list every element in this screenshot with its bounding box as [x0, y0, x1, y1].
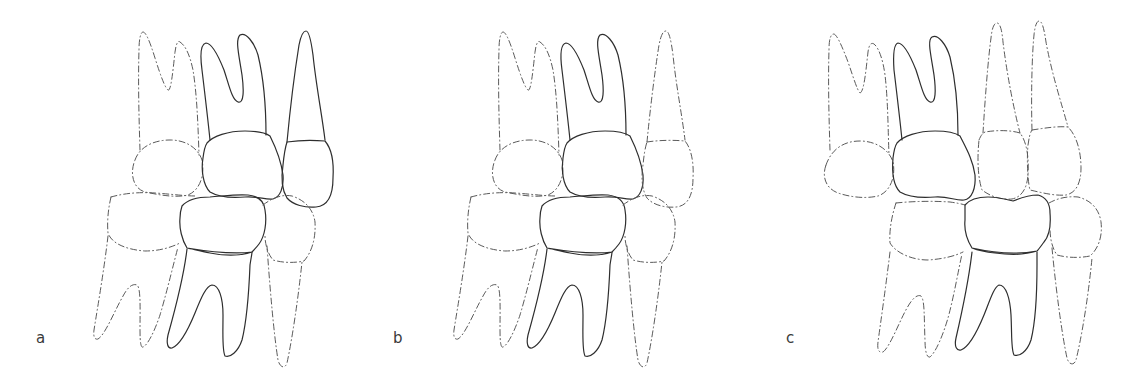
tooth-outline — [647, 31, 685, 142]
tooth-outline — [287, 31, 325, 142]
tooth-outline — [454, 236, 538, 347]
tooth-crown — [562, 131, 643, 199]
tooth-lower-right-premolar-dashed — [623, 195, 675, 366]
tooth-outline — [499, 32, 559, 155]
tooth-crown — [263, 195, 315, 262]
tooth-outline — [627, 246, 662, 367]
tooth-outline — [983, 23, 1020, 133]
tooth-outline — [829, 34, 889, 155]
tooth-lower-center-molar-solid — [167, 195, 266, 357]
tooth-outline — [955, 252, 1037, 355]
tooth-lower-right-premolar-dashed — [1049, 197, 1101, 364]
tooth-upper-center-molar-solid — [893, 36, 975, 200]
tooth-crown — [824, 141, 893, 197]
tooth-outline — [267, 246, 302, 367]
panel-label-b: b — [393, 331, 403, 346]
tooth-upper-premolar-2-dashed — [1027, 21, 1081, 195]
tooth-upper-center-molar-solid — [561, 34, 643, 199]
tooth-upper-center-molar-solid — [201, 34, 283, 199]
tooth-crown — [890, 201, 965, 260]
tooth-upper-left-molar-dashed — [492, 32, 562, 196]
tooth-lower-right-premolar-dashed — [263, 195, 315, 366]
tooth-crown — [202, 131, 283, 199]
tooth-crown — [282, 140, 333, 207]
teeth-drawing-canvas — [0, 0, 1122, 385]
occlusion-diagram-figure: a b c — [0, 0, 1122, 385]
tooth-lower-center-molar-solid — [955, 195, 1050, 355]
tooth-outline — [167, 249, 252, 356]
tooth-outline — [1032, 21, 1068, 130]
tooth-crown — [108, 193, 196, 251]
tooth-crown — [492, 140, 562, 196]
tooth-crown — [642, 140, 693, 207]
tooth-crown — [540, 195, 626, 255]
tooth-outline — [1052, 248, 1092, 364]
tooth-outline — [139, 32, 199, 155]
tooth-crown — [180, 195, 266, 255]
panel-label-a: a — [36, 331, 45, 346]
tooth-outline — [561, 34, 626, 140]
tooth-lower-center-molar-solid — [527, 195, 626, 357]
tooth-crown — [623, 195, 675, 262]
tooth-crown — [468, 193, 556, 251]
tooth-crown — [1049, 197, 1101, 258]
tooth-upper-premolar-1-dashed — [978, 23, 1028, 199]
tooth-crown — [893, 131, 975, 200]
tooth-outline — [894, 36, 958, 140]
panel-c — [824, 21, 1101, 364]
tooth-crown — [965, 195, 1050, 254]
tooth-outline — [94, 236, 178, 347]
tooth-crown — [978, 131, 1028, 200]
tooth-outline — [201, 34, 266, 140]
panel-label-c: c — [786, 331, 794, 346]
panel-a — [94, 31, 333, 367]
tooth-upper-left-molar-dashed — [132, 32, 202, 196]
tooth-upper-right-premolar-solid — [282, 31, 333, 207]
tooth-outline — [878, 252, 962, 357]
tooth-outline — [527, 249, 612, 356]
tooth-upper-left-molar-dashed — [824, 34, 893, 197]
tooth-upper-right-premolar-dashed — [642, 31, 693, 207]
panel-b — [454, 31, 693, 367]
tooth-crown — [132, 140, 202, 196]
tooth-crown — [1027, 127, 1081, 195]
tooth-lower-left-molar-dashed — [878, 201, 965, 357]
